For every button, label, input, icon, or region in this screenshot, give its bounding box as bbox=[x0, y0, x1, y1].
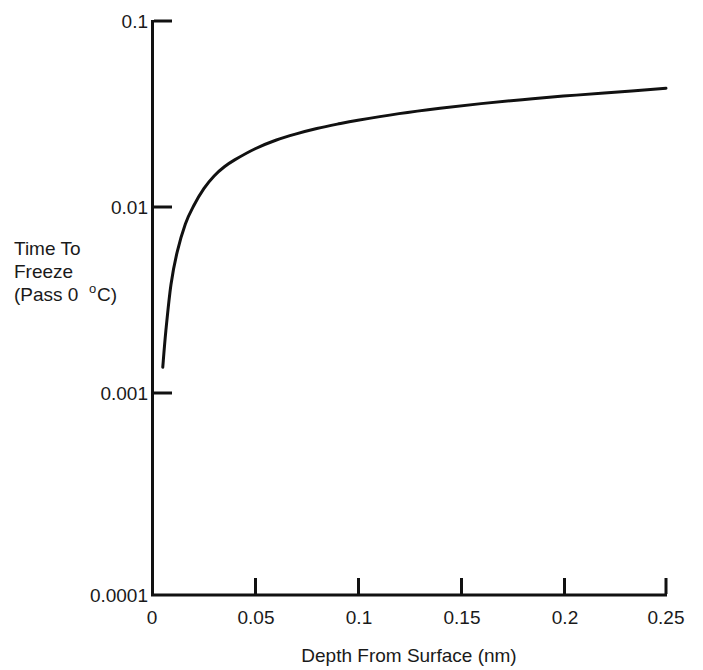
degree-symbol: o bbox=[89, 281, 96, 296]
y-tick-label-1: 0.01 bbox=[111, 197, 148, 218]
y-axis-title-line-3a: (Pass 0 bbox=[14, 284, 78, 305]
x-tick-label-3: 0.15 bbox=[444, 607, 481, 628]
y-tick-label-2: 0.001 bbox=[100, 383, 148, 404]
x-tick-label-4: 0.2 bbox=[552, 607, 578, 628]
y-axis-title-line-1: Time To bbox=[14, 238, 81, 259]
x-tick-label-1: 0.05 bbox=[238, 607, 275, 628]
x-tick-label-0: 0 bbox=[147, 607, 158, 628]
chart-figure: 0.1 0.01 0.001 0.0001 0 0.05 0.1 0.15 0.… bbox=[0, 0, 703, 670]
x-axis-ticks bbox=[153, 578, 667, 594]
y-tick-label-0: 0.1 bbox=[122, 11, 148, 32]
x-tick-label-5: 0.25 bbox=[648, 607, 685, 628]
y-axis-title-line-3: (Pass 0 o C) bbox=[14, 281, 117, 305]
y-axis-ticks bbox=[154, 21, 172, 393]
x-tick-label-2: 0.1 bbox=[346, 607, 372, 628]
y-axis-title-line-2: Freeze bbox=[14, 261, 73, 282]
chart-plot-area: 0.1 0.01 0.001 0.0001 0 0.05 0.1 0.15 0.… bbox=[0, 0, 703, 670]
y-axis-title-line-3b: C) bbox=[97, 284, 117, 305]
y-tick-label-3: 0.0001 bbox=[90, 585, 148, 606]
x-axis-title: Depth From Surface (nm) bbox=[301, 645, 516, 666]
data-series-line bbox=[163, 88, 666, 367]
